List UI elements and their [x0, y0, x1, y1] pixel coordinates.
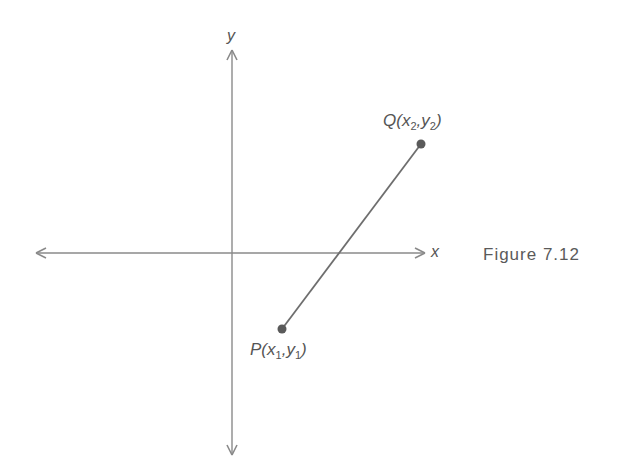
point-p-x-sub: 1	[276, 349, 282, 361]
point-p-y-var: y	[286, 340, 295, 359]
figure-caption: Figure 7.12	[483, 245, 580, 265]
point-q-name: Q	[383, 111, 396, 130]
point-q-y-sub: 2	[430, 120, 436, 132]
x-axis-label: x	[431, 244, 439, 260]
point-p-y-sub: 1	[295, 349, 301, 361]
point-q-y-var: y	[421, 111, 430, 130]
y-axis-label: y	[227, 28, 235, 44]
point-p	[278, 325, 287, 334]
point-p-label: P(x1,y1)	[250, 341, 307, 361]
point-q-x-sub: 2	[410, 120, 416, 132]
segment-pq	[282, 144, 421, 329]
coordinate-plane	[0, 0, 642, 475]
point-q-label: Q(x2,y2)	[383, 112, 442, 132]
point-q	[417, 140, 426, 149]
point-p-name: P	[250, 340, 261, 359]
point-p-x-var: x	[267, 340, 276, 359]
x-axis	[36, 248, 425, 258]
